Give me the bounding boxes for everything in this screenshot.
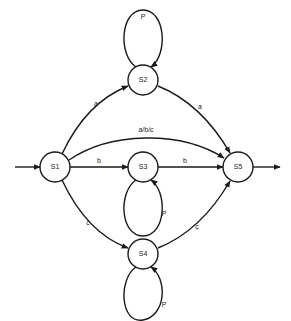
state-label-s2: S2: [139, 76, 148, 83]
state-node-s2: S2: [128, 65, 158, 95]
self-loop-s3: [124, 180, 162, 236]
edge-label-s2-s5: a: [198, 103, 202, 110]
state-label-s4: S4: [139, 250, 148, 257]
state-label-s5: S5: [234, 163, 243, 170]
state-node-s1: S1: [40, 152, 70, 182]
state-node-s5: S5: [223, 152, 253, 182]
edge-label-s1-s3: b: [97, 157, 101, 164]
state-node-s3: S3: [128, 152, 158, 182]
state-diagram: S1 S2 S3 S4 S5 a a a/b/c b b c c P P P: [0, 0, 291, 321]
edge-label-s4-s5: c: [195, 223, 199, 230]
edge-label-s1-s4: c: [86, 219, 90, 226]
edge-label-s3-s5: b: [183, 157, 187, 164]
state-label-s1: S1: [51, 163, 60, 170]
self-loop-s4: [124, 267, 162, 320]
loop-label-s3: P: [162, 210, 167, 217]
loop-label-s4: P: [162, 301, 167, 308]
edge-s1-s4: [62, 180, 128, 248]
edge-s1-s2: [62, 86, 128, 154]
loop-label-s2: P: [141, 13, 146, 20]
state-label-s3: S3: [139, 163, 148, 170]
edge-label-s1-s2: a: [94, 100, 98, 107]
edge-label-s1-s5: a/b/c: [138, 126, 154, 133]
edge-s4-s5: [158, 181, 230, 248]
edge-s2-s5: [158, 86, 230, 153]
state-node-s4: S4: [128, 239, 158, 269]
